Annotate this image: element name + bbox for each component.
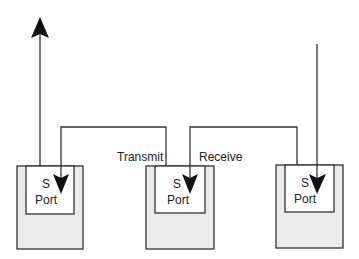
switch-left-port-label-s: S <box>42 177 50 191</box>
switch-middle-port-label-s: S <box>173 177 181 191</box>
switch-middle-port-label-port: Port <box>167 193 190 207</box>
switch-left-port-label-port: Port <box>35 193 58 207</box>
switch-right: S Port <box>276 165 343 248</box>
switch-right-port-label-port: Port <box>294 192 317 206</box>
port-diagram: S Port S Port S Port Transmit Receive <box>0 0 359 259</box>
switch-middle: S Port <box>146 166 214 249</box>
transmit-label: Transmit <box>117 150 164 164</box>
receive-label: Receive <box>199 150 243 164</box>
outgoing-up-arrow <box>31 17 49 166</box>
switch-left: S Port <box>17 166 83 249</box>
switch-right-port-label-s: S <box>301 176 309 190</box>
